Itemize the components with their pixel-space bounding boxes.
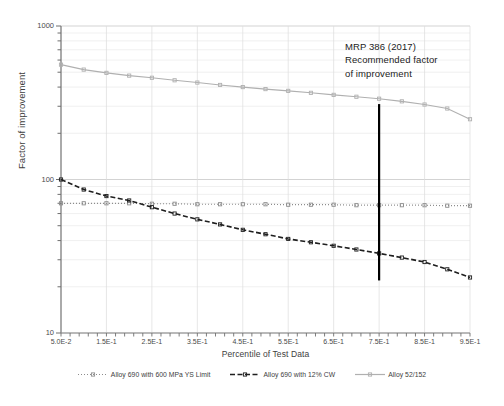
legend-swatch-icon	[230, 370, 260, 379]
chart-legend: Alloy 690 with 600 MPa YS LimitAlloy 690…	[0, 370, 504, 379]
chart-figure: Factor of improvement 100010010 5.0E-21.…	[0, 0, 504, 406]
legend-label: Alloy 690 with 600 MPa YS Limit	[111, 371, 211, 378]
legend-item[interactable]: Alloy 690 with 600 MPa YS Limit	[78, 370, 211, 379]
annotation-line-3: of improvement	[345, 67, 495, 80]
legend-item[interactable]: Alloy 690 with 12% CW	[230, 370, 335, 379]
mrp-annotation: MRP 386 (2017) Recommended factor of imp…	[345, 40, 495, 80]
legend-label: Alloy 52/152	[388, 371, 426, 378]
y-axis-ticks	[56, 26, 61, 333]
legend-swatch-icon	[355, 370, 385, 379]
series-1	[59, 178, 471, 279]
series-0	[59, 202, 471, 208]
legend-swatch-icon	[78, 370, 108, 379]
annotation-line-1: MRP 386 (2017)	[345, 40, 495, 53]
legend-item[interactable]: Alloy 52/152	[355, 370, 426, 379]
annotation-line-2: Recommended factor	[345, 53, 495, 66]
legend-label: Alloy 690 with 12% CW	[263, 371, 335, 378]
